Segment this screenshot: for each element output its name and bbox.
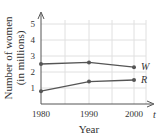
x-axis-title: Year bbox=[79, 123, 100, 135]
gridlines bbox=[41, 20, 146, 104]
axes bbox=[38, 12, 154, 107]
y-tick-label: 3 bbox=[31, 51, 36, 61]
line-chart: 12345 198019902000 WR t Year Number of w… bbox=[0, 0, 163, 139]
y-tick-label: 4 bbox=[31, 35, 36, 45]
data-point-r bbox=[87, 80, 91, 84]
series-label-r: R bbox=[140, 74, 147, 85]
y-tick-label: 1 bbox=[31, 83, 36, 93]
data-point-w bbox=[132, 65, 136, 69]
x-tick-label: 1990 bbox=[80, 109, 99, 119]
data-point-r bbox=[39, 89, 43, 93]
x-tick-labels: 198019902000 bbox=[32, 109, 144, 119]
x-axis-variable-label: t bbox=[153, 109, 156, 120]
x-tick-label: 2000 bbox=[125, 109, 144, 119]
y-tick-labels: 12345 bbox=[31, 19, 36, 93]
y-tick-label: 2 bbox=[31, 67, 36, 77]
x-tick-label: 1980 bbox=[32, 109, 51, 119]
data-point-w bbox=[39, 62, 43, 66]
y-axis-title-line-1: Number of women bbox=[2, 16, 14, 100]
y-axis-title: Number of women (in millions) bbox=[2, 16, 27, 100]
data-point-r bbox=[132, 78, 136, 82]
data-point-w bbox=[87, 60, 91, 64]
y-tick-label: 5 bbox=[31, 19, 36, 29]
series-label-w: W bbox=[141, 61, 151, 72]
y-axis-title-line-2: (in millions) bbox=[14, 30, 27, 85]
